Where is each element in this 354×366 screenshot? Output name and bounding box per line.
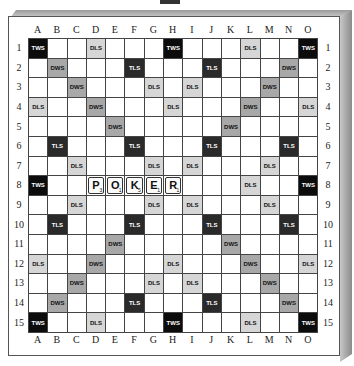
board-square-N13[interactable] <box>280 274 299 294</box>
board-square-N4[interactable] <box>280 98 299 118</box>
board-square-G1[interactable] <box>145 39 164 59</box>
board-square-N7[interactable] <box>280 157 299 177</box>
board-square-F10-tls[interactable]: TLS <box>125 215 144 235</box>
board-square-N2-dws[interactable]: DWS <box>280 59 299 79</box>
board-square-H7[interactable] <box>164 157 183 177</box>
board-square-E15[interactable] <box>106 313 125 333</box>
letter-tile[interactable]: E1 <box>146 177 162 194</box>
board-square-M11[interactable] <box>261 235 280 255</box>
letter-tile[interactable]: O1 <box>107 177 123 194</box>
board-square-M13-dws[interactable]: DWS <box>261 274 280 294</box>
board-square-B3[interactable] <box>48 78 67 98</box>
board-square-B8[interactable] <box>48 176 67 196</box>
board-square-N12[interactable] <box>280 255 299 275</box>
board-square-G2[interactable] <box>145 59 164 79</box>
board-square-D2[interactable] <box>87 59 106 79</box>
board-square-C3-dws[interactable]: DWS <box>68 78 87 98</box>
board-square-H9[interactable] <box>164 196 183 216</box>
board-square-I9-dls[interactable]: DLS <box>183 196 202 216</box>
board-square-H10[interactable] <box>164 215 183 235</box>
board-square-F2-tls[interactable]: TLS <box>125 59 144 79</box>
board-square-J14-tls[interactable]: TLS <box>203 294 222 314</box>
board-square-K9[interactable] <box>222 196 241 216</box>
board-square-B1[interactable] <box>48 39 67 59</box>
letter-tile[interactable]: R1 <box>165 177 181 194</box>
board-square-D1-dls[interactable]: DLS <box>87 39 106 59</box>
board-square-D10[interactable] <box>87 215 106 235</box>
board-square-F11[interactable] <box>125 235 144 255</box>
board-square-B15[interactable] <box>48 313 67 333</box>
board-square-F9[interactable] <box>125 196 144 216</box>
board-square-G3-dls[interactable]: DLS <box>145 78 164 98</box>
board-square-H5[interactable] <box>164 117 183 137</box>
board-square-H3[interactable] <box>164 78 183 98</box>
board-square-D14[interactable] <box>87 294 106 314</box>
board-square-C1[interactable] <box>68 39 87 59</box>
board-square-B7[interactable] <box>48 157 67 177</box>
board-square-K4[interactable] <box>222 98 241 118</box>
board-square-K1[interactable] <box>222 39 241 59</box>
board-square-B12[interactable] <box>48 255 67 275</box>
board-square-L2[interactable] <box>241 59 260 79</box>
board-square-H6[interactable] <box>164 137 183 157</box>
board-square-C8[interactable] <box>68 176 87 196</box>
board-square-K3[interactable] <box>222 78 241 98</box>
board-square-J10-tls[interactable]: TLS <box>203 215 222 235</box>
board-square-A5[interactable] <box>29 117 48 137</box>
board-square-A7[interactable] <box>29 157 48 177</box>
board-square-K5-dws[interactable]: DWS <box>222 117 241 137</box>
board-square-C6[interactable] <box>68 137 87 157</box>
board-square-G4[interactable] <box>145 98 164 118</box>
board-square-E8[interactable]: O1 <box>106 176 125 196</box>
board-square-A3[interactable] <box>29 78 48 98</box>
board-square-O4-dls[interactable]: DLS <box>299 98 318 118</box>
board-square-H11[interactable] <box>164 235 183 255</box>
board-square-G5[interactable] <box>145 117 164 137</box>
board-square-A13[interactable] <box>29 274 48 294</box>
board-square-C13-dws[interactable]: DWS <box>68 274 87 294</box>
board-square-J8[interactable] <box>203 176 222 196</box>
board-square-K8[interactable] <box>222 176 241 196</box>
board-square-L12-dws[interactable]: DWS <box>241 255 260 275</box>
board-square-G9-dls[interactable]: DLS <box>145 196 164 216</box>
board-square-I14[interactable] <box>183 294 202 314</box>
board-square-E12[interactable] <box>106 255 125 275</box>
board-square-M2[interactable] <box>261 59 280 79</box>
board-square-B6-tls[interactable]: TLS <box>48 137 67 157</box>
board-square-E9[interactable] <box>106 196 125 216</box>
board-square-F5[interactable] <box>125 117 144 137</box>
board-square-B2-dws[interactable]: DWS <box>48 59 67 79</box>
board-square-A2[interactable] <box>29 59 48 79</box>
board-square-H12-dls[interactable]: DLS <box>164 255 183 275</box>
board-square-H15-tws[interactable]: TWS <box>164 313 183 333</box>
board-square-E13[interactable] <box>106 274 125 294</box>
board-square-H13[interactable] <box>164 274 183 294</box>
board-square-E6[interactable] <box>106 137 125 157</box>
board-square-I7-dls[interactable]: DLS <box>183 157 202 177</box>
board-square-N14-dws[interactable]: DWS <box>280 294 299 314</box>
board-square-I15[interactable] <box>183 313 202 333</box>
board-square-K6[interactable] <box>222 137 241 157</box>
board-square-G15[interactable] <box>145 313 164 333</box>
letter-tile[interactable]: K5 <box>126 177 142 194</box>
board-square-M7-dls[interactable]: DLS <box>261 157 280 177</box>
board-square-O10[interactable] <box>299 215 318 235</box>
board-square-L9[interactable] <box>241 196 260 216</box>
board-square-E14[interactable] <box>106 294 125 314</box>
board-square-M5[interactable] <box>261 117 280 137</box>
board-square-M3-dws[interactable]: DWS <box>261 78 280 98</box>
board-square-N11[interactable] <box>280 235 299 255</box>
board-square-O14[interactable] <box>299 294 318 314</box>
board-square-M9-dls[interactable]: DLS <box>261 196 280 216</box>
board-square-C12[interactable] <box>68 255 87 275</box>
board-square-D11[interactable] <box>87 235 106 255</box>
board-square-O7[interactable] <box>299 157 318 177</box>
board-square-C2[interactable] <box>68 59 87 79</box>
board-square-F12[interactable] <box>125 255 144 275</box>
board-square-F6-tls[interactable]: TLS <box>125 137 144 157</box>
board-square-O11[interactable] <box>299 235 318 255</box>
board-square-B13[interactable] <box>48 274 67 294</box>
board-square-E2[interactable] <box>106 59 125 79</box>
board-square-C4[interactable] <box>68 98 87 118</box>
board-square-C9-dls[interactable]: DLS <box>68 196 87 216</box>
